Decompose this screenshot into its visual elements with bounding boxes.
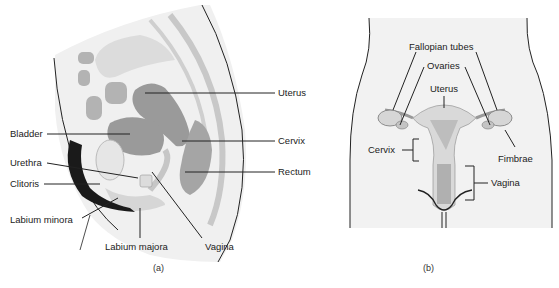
label-fallopian-tubes: Fallopian tubes xyxy=(409,41,474,52)
caption-b: (b) xyxy=(423,263,434,273)
label-ovaries: Ovaries xyxy=(427,60,460,71)
label-rectum: Rectum xyxy=(278,166,311,177)
intestine-loop xyxy=(86,96,102,120)
label-vagina-b: Vagina xyxy=(491,177,521,188)
intestine-loop xyxy=(105,82,127,104)
anatomy-diagram: Uterus Bladder Cervix Urethra Rectum Cli… xyxy=(0,0,559,288)
intestine-loop xyxy=(78,70,90,86)
label-labium-minora: Labium minora xyxy=(10,214,74,225)
ovary-left-inner xyxy=(396,121,408,129)
label-vagina-a: Vagina xyxy=(205,241,235,252)
label-cervix-b: Cervix xyxy=(368,144,395,155)
intestine-loop xyxy=(78,52,94,64)
label-uterus-a: Uterus xyxy=(278,87,306,98)
label-uterus-b: Uterus xyxy=(430,83,458,94)
caption-a: (a) xyxy=(153,263,164,273)
label-fimbrae: Fimbrae xyxy=(498,153,533,164)
label-cervix-a: Cervix xyxy=(278,135,305,146)
label-bladder: Bladder xyxy=(10,128,43,139)
label-urethra: Urethra xyxy=(10,157,42,168)
ovary-right-inner xyxy=(482,121,494,129)
pubic-bone xyxy=(96,140,124,180)
leg-outline xyxy=(80,215,90,250)
label-clitoris: Clitoris xyxy=(10,178,39,189)
vaginal-canal-b xyxy=(437,164,451,204)
label-labium-majora: Labium majora xyxy=(105,241,169,252)
urethra-opening xyxy=(140,175,152,187)
